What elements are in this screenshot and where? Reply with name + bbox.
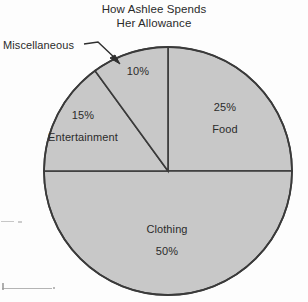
scan-artifact-dot <box>53 287 55 289</box>
slice-name-entertainment: Entertainment <box>22 130 144 144</box>
slice-label-entertainment: 15% Entertainment <box>22 108 144 144</box>
slice-name-miscellaneous: Miscellaneous <box>3 38 74 52</box>
scan-artifact-dash <box>1 221 14 222</box>
slice-percent-clothing: 50% <box>106 244 228 258</box>
scan-artifact-rule <box>2 288 52 289</box>
slice-percent-food: 25% <box>192 100 258 114</box>
slice-percent-miscellaneous: 10% <box>118 64 158 78</box>
slice-label-food: 25% Food <box>192 100 258 136</box>
slice-name-clothing: Clothing <box>146 223 187 235</box>
slice-name-food: Food <box>192 122 258 136</box>
slice-label-clothing: Clothing 50% <box>106 222 228 258</box>
slice-percent-entertainment: 15% <box>72 109 94 121</box>
chart-canvas: How Ashlee Spends Her Allowance 25% Food… <box>0 0 308 302</box>
scan-artifact-dash-secondary <box>18 221 22 223</box>
